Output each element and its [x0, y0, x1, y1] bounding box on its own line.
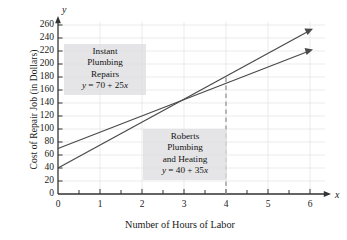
x-axis [58, 191, 331, 197]
equation-rhs: = 70 + 25 [88, 80, 124, 90]
annotation-line: Instant [69, 46, 141, 57]
y-axis-ticks [58, 25, 63, 181]
annotation-roberts-plumbing-and-heating: Roberts Plumbing and Heating y = 40 + 35… [143, 129, 227, 180]
x-axis-ticks [79, 189, 310, 194]
equation-variable: x [204, 165, 208, 175]
x-axis-title: Number of Hours of Labor [55, 219, 305, 230]
annotation-instant-plumbing-repairs: Instant Plumbing Repairs y = 70 + 25x [64, 44, 146, 95]
equation-lhs: y [162, 165, 166, 175]
annotation-line: Repairs [69, 69, 141, 80]
chart-figure: 260 240 220 200 180 160 140 120 100 80 6… [0, 0, 347, 240]
x-tick-label: 5 [260, 200, 276, 210]
annotation-equation: y = 70 + 25x [69, 80, 141, 91]
y-axis-symbol: y [62, 4, 66, 15]
x-tick-label: 2 [134, 200, 150, 210]
x-tick-label: 1 [92, 200, 108, 210]
x-tick-label: 6 [302, 200, 318, 210]
annotation-line: Plumbing [148, 142, 222, 153]
x-tick-label: 4 [218, 200, 234, 210]
annotation-line: and Heating [148, 154, 222, 165]
annotation-equation: y = 40 + 35x [148, 165, 222, 176]
equation-lhs: y [82, 80, 86, 90]
annotation-line: Plumbing [69, 57, 141, 68]
equation-rhs: = 40 + 35 [168, 165, 204, 175]
x-axis-symbol: x [335, 189, 339, 200]
x-tick-label: 3 [176, 200, 192, 210]
annotation-line: Roberts [148, 131, 222, 142]
x-tick-label: 0 [50, 200, 66, 210]
equation-variable: x [124, 80, 128, 90]
y-axis-title: Cost of Repair Job (in Dollars) [28, 25, 39, 195]
